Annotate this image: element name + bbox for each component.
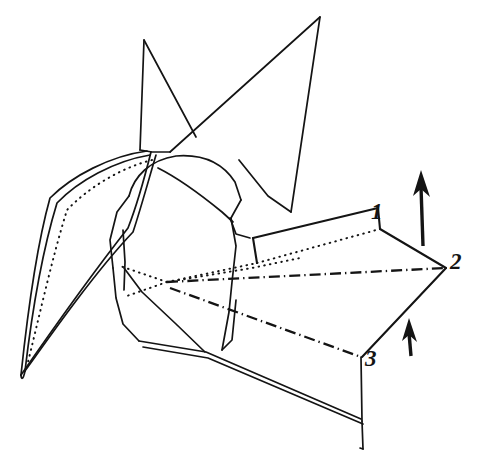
tail-spike-right-edge <box>291 17 320 212</box>
main-axis-dash-dot <box>167 268 446 282</box>
reference-lines-group <box>120 258 446 357</box>
flap-to-vertex2-upper <box>380 229 446 268</box>
left-wing-group <box>21 151 156 378</box>
body-left-outline <box>110 196 129 268</box>
bottom-panel-tip-edge <box>360 448 363 449</box>
upper-flap-top-edge <box>253 208 378 238</box>
panel3-right-edge <box>361 357 362 421</box>
body-left-lower-outline <box>113 268 139 341</box>
upper-flap-hidden-edge <box>257 229 380 263</box>
origami-figure: 1 2 3 <box>0 0 480 466</box>
tail-spike-group <box>170 17 320 212</box>
head-spike-right-edge <box>144 40 196 137</box>
body-group <box>110 156 250 352</box>
large-up-arrow <box>413 170 430 246</box>
head-spike-left-edge <box>140 40 144 150</box>
origami-line-drawing <box>0 0 480 466</box>
small-up-arrow <box>402 318 417 356</box>
left-wing-spine-front <box>21 152 151 375</box>
tail-spike-left-edge <box>170 17 320 152</box>
vertex2-to-vertex3-edge <box>362 268 446 357</box>
upper-flap-left-edge <box>253 238 257 263</box>
body-inner-vertical-crease <box>123 230 125 290</box>
bottom-panel-group <box>139 341 363 449</box>
large-arrow-shaft <box>421 187 423 246</box>
upper-flap-group <box>253 208 446 268</box>
vertex-label-3: 3 <box>365 347 377 370</box>
converge-dotted-left-upper <box>120 266 167 282</box>
bottom-panel-right-edge <box>362 421 363 449</box>
lower-flap-group <box>361 268 446 421</box>
body-top-dotted-crease <box>158 168 233 222</box>
left-wing-outer-edge <box>21 151 147 375</box>
tail-spike-lower-edge <box>239 160 291 212</box>
vertex-label-1: 1 <box>371 200 383 223</box>
bottom-panel-upper-edge-2 <box>143 347 363 424</box>
vertex-label-2: 2 <box>450 250 462 273</box>
